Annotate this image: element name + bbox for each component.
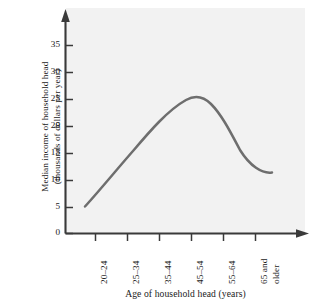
x-tick-label-45-54: 45–54	[195, 261, 205, 284]
chart-figure: 0 5 10 15 20 25 30 35 20–24 25–34 35–44 …	[0, 0, 319, 308]
x-tick-label-35-44: 35–44	[163, 261, 173, 284]
x-tick-label-20-24: 20–24	[99, 261, 109, 284]
x-tick-label-65-and-older-line2: older	[271, 265, 281, 284]
x-tick-label-25-34: 25–34	[131, 261, 141, 284]
x-tick-label-55-64: 55–64	[227, 261, 237, 284]
x-axis-title: Age of household head (years)	[66, 288, 305, 299]
y-axis-title-line1: Median income of household head	[40, 62, 50, 192]
x-tick-marks	[96, 234, 256, 242]
income-curve	[85, 97, 272, 206]
x-axis-arrowhead	[296, 229, 309, 238]
y-axis-title-line2: (thousands of dollars per year)	[52, 17, 64, 237]
y-tick-marks	[66, 46, 74, 234]
y-axis-title: Median income of household head (thousan…	[40, 17, 63, 237]
x-tick-label-65-and-older-line1: 65 and	[259, 259, 269, 284]
